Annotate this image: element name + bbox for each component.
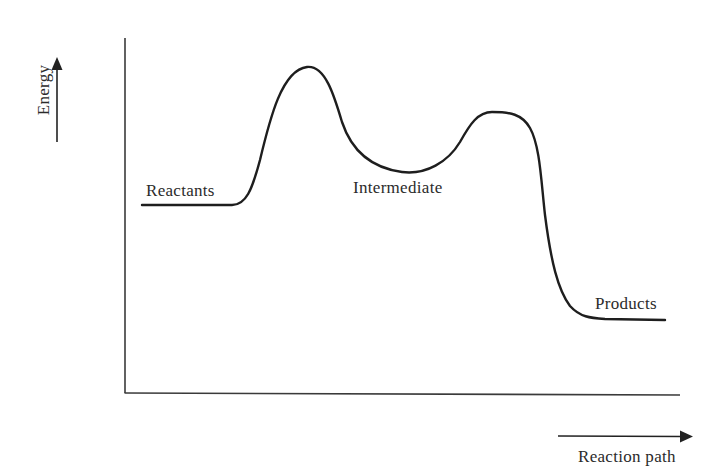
x-axis-line — [125, 393, 681, 395]
diagram-canvas — [0, 0, 721, 474]
y-axis-label: Energy — [34, 60, 54, 120]
x-axis-label: Reaction path — [578, 447, 676, 467]
intermediate-label: Intermediate — [353, 178, 443, 198]
reaction-path-arrow-icon — [558, 431, 693, 443]
products-label: Products — [595, 294, 657, 314]
reaction-energy-diagram: Energy Reactants Intermediate Products R… — [0, 0, 721, 474]
reactants-label: Reactants — [146, 181, 215, 201]
